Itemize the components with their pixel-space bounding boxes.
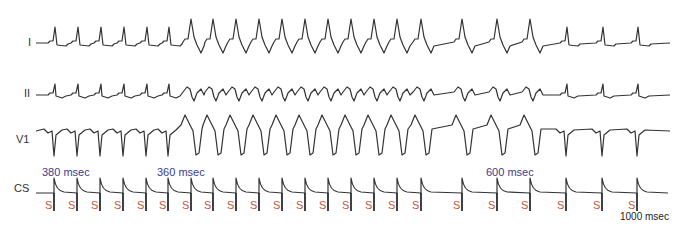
stim-label: S bbox=[45, 199, 52, 211]
stim-label: S bbox=[114, 199, 121, 211]
stim-label: S bbox=[250, 199, 257, 211]
stim-label: S bbox=[365, 199, 372, 211]
stim-label: S bbox=[319, 199, 326, 211]
stim-label: S bbox=[182, 199, 189, 211]
stim-label: S bbox=[68, 199, 75, 211]
lead-v1-trace bbox=[36, 115, 670, 156]
stim-label: S bbox=[227, 199, 234, 211]
stim-label: S bbox=[593, 199, 600, 211]
stim-label: S bbox=[296, 199, 303, 211]
stim-label: S bbox=[557, 199, 564, 211]
stim-label: S bbox=[159, 199, 166, 211]
stim-label: S bbox=[204, 199, 211, 211]
ecg-traces: SSSSSSSSSSSSSSSSSSSSSSS bbox=[0, 0, 684, 229]
lead-i-trace bbox=[36, 19, 670, 53]
stim-label: S bbox=[412, 199, 419, 211]
stim-label: S bbox=[342, 199, 349, 211]
lead-ii-trace bbox=[36, 84, 670, 101]
stim-label: S bbox=[521, 199, 528, 211]
lead-cs-trace: SSSSSSSSSSSSSSSSSSSSSSS bbox=[36, 178, 668, 211]
stim-label: S bbox=[91, 199, 98, 211]
stim-label: S bbox=[628, 199, 635, 211]
stim-label: S bbox=[453, 199, 460, 211]
stim-label: S bbox=[273, 199, 280, 211]
stim-label: S bbox=[388, 199, 395, 211]
stim-label: S bbox=[488, 199, 495, 211]
stim-label: S bbox=[137, 199, 144, 211]
